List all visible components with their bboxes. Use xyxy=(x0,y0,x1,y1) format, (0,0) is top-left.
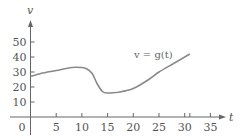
x-tick-label: 20 xyxy=(126,121,140,134)
curve-label: v = g(t) xyxy=(133,49,173,60)
x-tick-label: 25 xyxy=(152,121,166,134)
x-tick-label: 30 xyxy=(178,121,192,134)
x-tick-label: 5 xyxy=(53,121,60,134)
x-tick-label: 35 xyxy=(203,121,217,134)
x-tick-label: 10 xyxy=(75,121,89,134)
y-tick-label: 30 xyxy=(13,66,27,79)
y-tick-label: 10 xyxy=(13,96,27,109)
y-axis-arrow-icon xyxy=(28,20,33,27)
x-axis-arrow-icon xyxy=(219,115,226,120)
chart: 051015202530351020304050 v = g(t) t v xyxy=(0,0,243,139)
x-axis-label: t xyxy=(229,111,234,124)
x-tick-label: 0 xyxy=(19,121,26,134)
x-tick-label: 15 xyxy=(101,121,115,134)
y-tick-label: 50 xyxy=(13,36,27,49)
y-tick-label: 20 xyxy=(13,81,27,94)
axes xyxy=(10,20,226,135)
y-axis-label: v xyxy=(27,4,34,17)
y-tick-label: 40 xyxy=(13,51,27,64)
ticks: 051015202530351020304050 xyxy=(13,36,218,134)
